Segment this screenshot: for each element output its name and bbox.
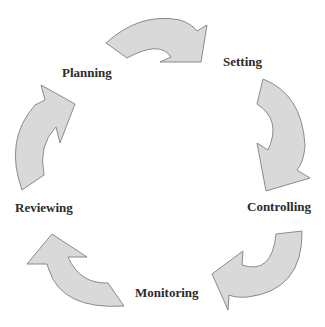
cycle-arrows	[0, 0, 325, 327]
curved-arrow-setting-to-controlling-icon	[257, 79, 310, 191]
stage-label-planning: Planning	[62, 66, 112, 79]
stage-label-setting: Setting	[223, 55, 262, 68]
curved-arrow-planning-to-setting-icon	[106, 18, 207, 62]
stage-label-reviewing: Reviewing	[15, 201, 73, 214]
curved-arrow-monitoring-to-reviewing-icon	[27, 234, 124, 306]
curved-arrow-reviewing-to-planning-icon	[15, 85, 75, 190]
cycle-diagram: Planning Setting Controlling Monitoring …	[0, 0, 325, 327]
stage-label-monitoring: Monitoring	[135, 286, 199, 299]
curved-arrow-controlling-to-monitoring-icon	[212, 231, 302, 310]
stage-label-controlling: Controlling	[247, 200, 311, 213]
